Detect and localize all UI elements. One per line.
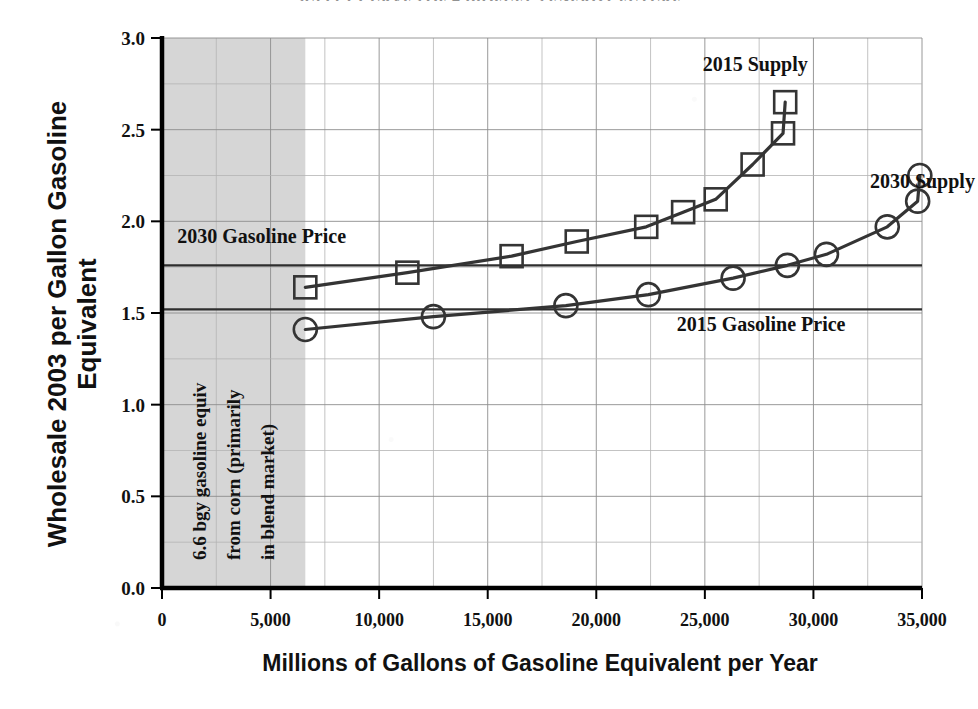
x-tick-label: 25,000 [680,610,730,630]
annotation-label: 2030 Gasoline Price [177,225,346,247]
y-tick-label: 0.0 [121,578,145,599]
y-tick-label: 1.5 [121,303,145,324]
x-tick-label: 0 [158,610,167,630]
shade-region-line: 6.6 bgy gasoline equiv [189,382,210,560]
x-tick-label: 35,000 [897,610,947,630]
y-tick-labels: 0.00.51.01.52.02.53.0 [121,28,145,599]
x-tick-label: 20,000 [572,610,622,630]
annotation-label: 2015 Gasoline Price [677,313,846,335]
shade-region-line: in blend market) [257,424,279,560]
y-tick-label: 1.0 [121,395,145,416]
shade-region-line: from corn (primarily [223,389,245,560]
y-tick-label: 2.0 [121,211,145,232]
x-tick-labels: 05,00010,00015,00020,00025,00030,00035,0… [158,610,947,630]
y-tick-label: 0.5 [121,486,145,507]
x-tick-label: 5,000 [250,610,291,630]
y-tick-label: 3.0 [121,28,145,49]
x-tick-label: 30,000 [789,610,839,630]
x-tick-label: 15,000 [463,610,513,630]
chart-plot-area: 0.00.51.01.52.02.53.0 05,00010,00015,000… [0,0,978,709]
y-tick-label: 2.5 [121,120,145,141]
annotation-label: 2015 Supply [703,53,808,76]
x-tick-label: 10,000 [354,610,404,630]
annotation-label: 2030 Supply [870,170,975,193]
